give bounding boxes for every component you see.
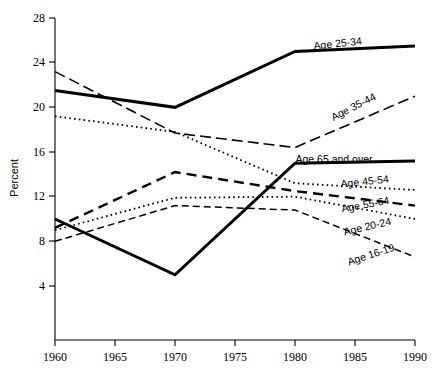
chart-container: 28 24 20 16 12 8 4 Percent 1960 1965 197… [0, 0, 446, 381]
y-tick-label: 12 [33, 189, 45, 203]
x-tick-label: 1960 [43, 350, 67, 364]
x-tick-label: 1970 [163, 350, 187, 364]
y-tick-label: 4 [39, 279, 45, 293]
chart-background [0, 0, 446, 381]
x-tick-label: 1980 [283, 350, 307, 364]
line-chart: 28 24 20 16 12 8 4 Percent 1960 1965 197… [0, 0, 446, 381]
y-tick-label: 16 [33, 145, 45, 159]
x-tick-label: 1975 [223, 350, 247, 364]
series-label-age-65-and-over: Age 65 and over [295, 153, 373, 165]
y-tick-label: 28 [33, 11, 45, 25]
x-tick-label: 1990 [403, 350, 427, 364]
x-tick-label: 1985 [343, 350, 367, 364]
y-axis-title: Percent [8, 159, 20, 197]
x-tick-label: 1965 [103, 350, 127, 364]
y-tick-label: 20 [33, 100, 45, 114]
y-tick-label: 24 [33, 55, 45, 69]
y-tick-label: 8 [39, 234, 45, 248]
